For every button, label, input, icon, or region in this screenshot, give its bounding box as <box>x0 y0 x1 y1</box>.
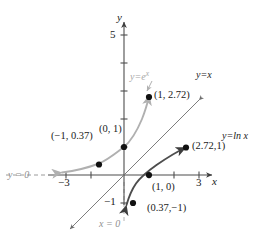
logarithm-curve <box>127 148 187 206</box>
point-label-log-1: (1, 0) <box>152 182 175 193</box>
y-tick-label-5: 5 <box>110 29 116 40</box>
exp-label-leader <box>147 81 152 91</box>
x-tick-label-neg3: −3 <box>58 177 70 188</box>
point-label-exp-neg1: (−1, 0.37) <box>51 131 93 142</box>
horizontal-asymptote-label: y = 0 <box>8 170 29 180</box>
vertical-asymptote-label: x = 0 <box>99 219 120 229</box>
point-label-log-037: (0.37,−1) <box>147 203 186 214</box>
x-axis <box>48 172 212 179</box>
logarithm-curve-label: y=ln x <box>222 131 248 141</box>
x-axis-label: x <box>212 176 217 187</box>
point-label-log-272: (2.72,1) <box>192 141 225 152</box>
point-label-exp-1: (1, 2.72) <box>154 90 190 101</box>
exponential-curve-label-text: y=e <box>130 71 146 82</box>
point-label-exp-0: (0, 1) <box>99 124 122 135</box>
x-tick-label-3: 3 <box>196 177 202 188</box>
plot-canvas <box>0 0 271 238</box>
exponential-curve-label-exponent: x <box>146 69 149 78</box>
identity-line-label: y=x <box>196 70 212 80</box>
graph-figure: y x 5 −1 −3 3 y = 0 x = 0 y=ex y=x y=ln … <box>0 0 271 238</box>
y-tick-label-neg1: −1 <box>104 196 116 207</box>
y-axis-label: y <box>117 12 122 23</box>
exponential-curve-label: y=ex <box>130 70 149 82</box>
